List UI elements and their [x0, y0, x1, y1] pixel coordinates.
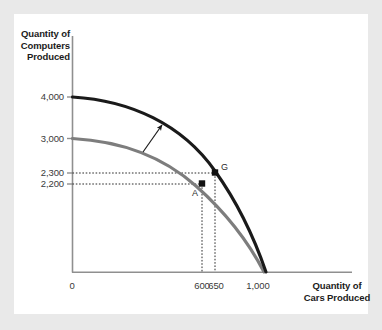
x-axis-title-line-2: Cars Produced: [296, 292, 378, 304]
x-tick-label-1000: 1,000: [237, 280, 279, 291]
y-tick-label-3000: 3,000: [24, 133, 64, 144]
data-point-label-g: G: [221, 162, 228, 172]
axis-lines: [72, 36, 352, 273]
x-axis-title-line-1: Quantity of: [296, 280, 378, 292]
y-tick-label-2300: 2,300: [24, 167, 64, 178]
data-point-g-marker: [212, 169, 218, 175]
outward-shift-arrow: [143, 125, 162, 152]
data-point-a-marker: [199, 180, 205, 186]
y-tick-label-2200: 2,200: [24, 178, 64, 189]
y-tick-label-4000: 4,000: [24, 91, 64, 102]
y-tick-marks: [67, 97, 73, 184]
y-axis-title-line-3: Produced: [8, 51, 70, 63]
y-axis-title-line-1: Quantity of: [8, 28, 70, 40]
y-axis-title: Quantity of Computers Produced: [8, 28, 70, 63]
x-tick-label-650: 650: [195, 280, 237, 291]
x-axis-title: Quantity of Cars Produced: [296, 280, 378, 303]
figure-canvas: Quantity of Computers Produced Quantity …: [0, 0, 382, 330]
data-point-label-a: A: [192, 188, 198, 198]
x-tick-label-0: 0: [51, 280, 93, 291]
y-axis-title-line-2: Computers: [8, 40, 70, 52]
